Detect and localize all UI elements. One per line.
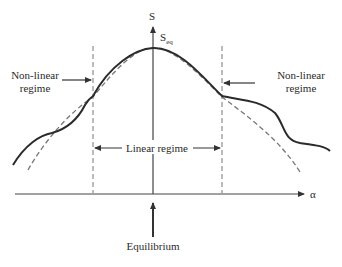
s-eq-label: Seq	[160, 31, 173, 46]
equilibrium-label: Equilibrium	[126, 240, 180, 252]
alpha-axis-label: α	[310, 188, 316, 200]
linear-regime-label: Linear regime	[126, 142, 188, 154]
entropy-diagram: α S Seq Non-linear regime Non-linear reg…	[0, 0, 342, 267]
non-linear-left-line1: Non-linear	[11, 69, 59, 81]
non-linear-right-line2: regime	[286, 82, 317, 94]
non-linear-right-line1: Non-linear	[277, 69, 325, 81]
s-axis-label: S	[149, 10, 155, 22]
non-linear-left-line2: regime	[20, 82, 51, 94]
